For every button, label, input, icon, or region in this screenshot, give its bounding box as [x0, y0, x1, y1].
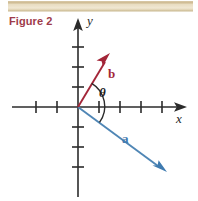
- vector-diagram-plot: y x b a θ: [0, 0, 198, 201]
- angle-theta-label: θ: [99, 85, 106, 100]
- vector-a-label: a: [122, 131, 129, 146]
- vector-b-label: b: [108, 66, 115, 81]
- figure-container: Figure 2: [0, 0, 198, 201]
- vector-b-arrowhead: [97, 53, 111, 66]
- x-axis-group: [12, 101, 187, 113]
- vector-a-line: [78, 107, 158, 166]
- vector-a-arrowhead: [153, 160, 168, 172]
- x-axis-label: x: [175, 111, 182, 126]
- y-axis-label: y: [85, 13, 93, 28]
